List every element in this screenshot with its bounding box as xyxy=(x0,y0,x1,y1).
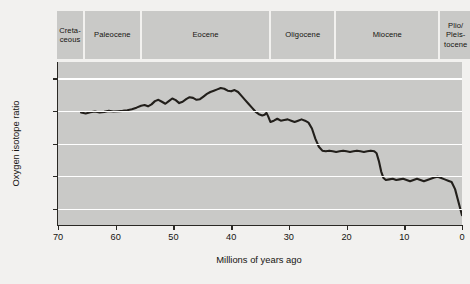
epoch-label: Oligocene xyxy=(284,30,321,39)
x-axis-tick xyxy=(173,225,174,230)
x-axis-tick-label: 10 xyxy=(399,232,409,242)
epoch-band-creta-ceous: Creta- ceous xyxy=(57,11,83,59)
gridline xyxy=(58,144,462,145)
epoch-band-eocene: Eocene xyxy=(142,11,270,59)
y-axis-tick xyxy=(53,176,58,177)
x-axis-tick-label: 20 xyxy=(341,232,351,242)
plot-inner xyxy=(58,62,462,225)
x-axis-tick-label: 70 xyxy=(53,232,63,242)
y-axis-tick xyxy=(53,78,58,79)
gridline xyxy=(58,209,462,210)
gridline xyxy=(58,111,462,112)
x-axis-tick-label: 30 xyxy=(284,232,294,242)
y-axis-tick xyxy=(53,144,58,145)
x-axis-tick xyxy=(116,225,117,230)
gridline xyxy=(58,78,462,79)
epoch-label: Creta- ceous xyxy=(58,26,82,45)
epoch-band-miocene: Miocene xyxy=(336,11,438,59)
chart-figure: Creta- ceousPaleoceneEoceneOligoceneMioc… xyxy=(0,0,470,284)
x-axis-tick xyxy=(58,225,59,230)
x-axis-tick-label: 60 xyxy=(111,232,121,242)
x-axis-tick xyxy=(231,225,232,230)
x-axis-tick xyxy=(462,225,463,230)
epoch-label: Eocene xyxy=(191,30,219,39)
epoch-band-plio-pleis-tocene: Plio/ Pleis- tocene xyxy=(440,11,470,59)
x-axis-title: Millions of years ago xyxy=(57,254,461,265)
epoch-label: Plio/ Pleis- tocene xyxy=(443,21,468,49)
x-axis-tick-label: 0 xyxy=(459,232,464,242)
epoch-label: Miocene xyxy=(372,30,403,39)
epoch-band-oligocene: Oligocene xyxy=(271,11,334,59)
geologic-epoch-strip: Creta- ceousPaleoceneEoceneOligoceneMioc… xyxy=(57,11,461,59)
x-axis-tick-label: 40 xyxy=(226,232,236,242)
epoch-label: Paleocene xyxy=(93,30,132,39)
plot-area: –1.00.01.02.03.0706050403020100 xyxy=(57,62,462,226)
epoch-band-paleocene: Paleocene xyxy=(85,11,140,59)
y-axis-title: Oxygen isotope ratio xyxy=(7,62,23,225)
y-axis-tick xyxy=(53,111,58,112)
y-axis-tick xyxy=(53,209,58,210)
gridline xyxy=(58,176,462,177)
x-axis-tick-label: 50 xyxy=(168,232,178,242)
x-axis-tick xyxy=(404,225,405,230)
x-axis-tick xyxy=(289,225,290,230)
x-axis-tick xyxy=(347,225,348,230)
